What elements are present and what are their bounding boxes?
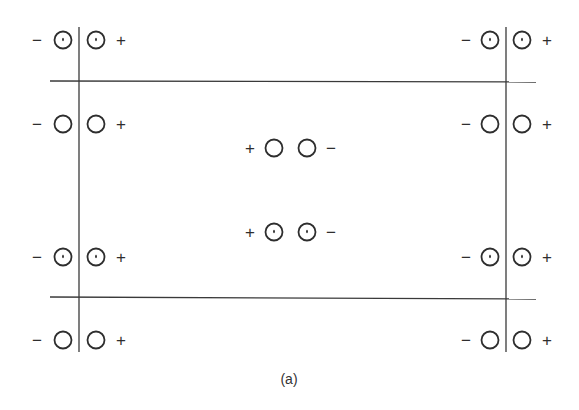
circle-icon xyxy=(482,116,499,133)
minus-sign: − xyxy=(32,115,42,134)
minus-sign: − xyxy=(326,223,336,242)
minus-sign: − xyxy=(32,331,42,350)
top-horizontal-line xyxy=(50,81,536,82)
center-dot-icon xyxy=(95,38,97,42)
minus-sign: − xyxy=(326,139,336,158)
charge-groups: −+−+−+−+−+−+−+−++−+− xyxy=(32,31,552,350)
circle-icon xyxy=(266,140,283,157)
minus-sign: − xyxy=(461,331,471,350)
center-dot-icon xyxy=(521,38,523,42)
center-dot-icon xyxy=(489,38,491,42)
circle-icon xyxy=(299,140,316,157)
plus-sign: + xyxy=(245,223,255,242)
charge-group-center-row1: +− xyxy=(245,139,336,158)
charge-group-center-row2: +− xyxy=(245,223,336,242)
minus-sign: − xyxy=(32,248,42,267)
circle-icon xyxy=(55,116,72,133)
bottom-horizontal-line xyxy=(50,297,536,299)
center-dot-icon xyxy=(521,255,523,259)
grid-lines xyxy=(50,27,536,352)
circle-icon xyxy=(514,116,531,133)
minus-sign: − xyxy=(461,248,471,267)
plus-sign: + xyxy=(542,331,552,350)
center-dot-icon xyxy=(273,230,275,234)
plus-sign: + xyxy=(116,31,126,50)
figure-caption: (a) xyxy=(280,371,297,387)
center-dot-icon xyxy=(62,38,64,42)
plus-sign: + xyxy=(542,248,552,267)
circle-icon xyxy=(88,116,105,133)
center-dot-icon xyxy=(95,255,97,259)
center-dot-icon xyxy=(489,255,491,259)
circle-icon xyxy=(514,332,531,349)
plus-sign: + xyxy=(116,331,126,350)
plus-sign: + xyxy=(542,31,552,50)
plus-sign: + xyxy=(245,139,255,158)
circle-icon xyxy=(88,332,105,349)
center-dot-icon xyxy=(306,230,308,234)
minus-sign: − xyxy=(461,115,471,134)
minus-sign: − xyxy=(461,31,471,50)
circle-icon xyxy=(482,332,499,349)
circle-icon xyxy=(55,332,72,349)
minus-sign: − xyxy=(32,31,42,50)
center-dot-icon xyxy=(62,255,64,259)
plus-sign: + xyxy=(116,248,126,267)
charge-diagram: −+−+−+−+−+−+−+−++−+− (a) xyxy=(0,0,579,410)
plus-sign: + xyxy=(116,115,126,134)
plus-sign: + xyxy=(542,115,552,134)
